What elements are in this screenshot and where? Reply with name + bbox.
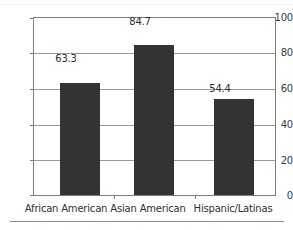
bar-value-label-hispanic-latinas: 54.4 <box>193 84 247 94</box>
y-tick-mark-20 <box>30 160 34 161</box>
bottom-divider-rule <box>10 221 284 222</box>
x-axis-category-label-asian-american: Asian American <box>110 203 186 214</box>
y-tick-mark-60 <box>30 89 34 90</box>
bar-value-label-african-american: 63.3 <box>39 54 93 64</box>
bar-chart-figure: 100 80 60 40 20 0 63.3 84.7 54.4 African… <box>0 0 293 230</box>
x-axis-category-label-hispanic-latinas: Hispanic/Latinas <box>187 203 279 214</box>
y-tick-mark-80 <box>30 53 34 54</box>
plot-area <box>33 17 276 196</box>
x-tick-mark-2 <box>195 195 196 199</box>
y-tick-mark-40 <box>30 125 34 126</box>
x-tick-mark-1 <box>114 195 115 199</box>
bar-asian-american <box>134 45 174 195</box>
x-axis-category-label-african-american: African American <box>24 203 108 214</box>
y-tick-mark-100 <box>30 18 34 19</box>
y-tick-mark-0 <box>30 195 34 196</box>
bar-hispanic-latinas <box>214 99 254 195</box>
top-divider-rule <box>0 4 293 5</box>
bar-african-american <box>60 83 100 195</box>
bar-value-label-asian-american: 84.7 <box>113 17 167 27</box>
